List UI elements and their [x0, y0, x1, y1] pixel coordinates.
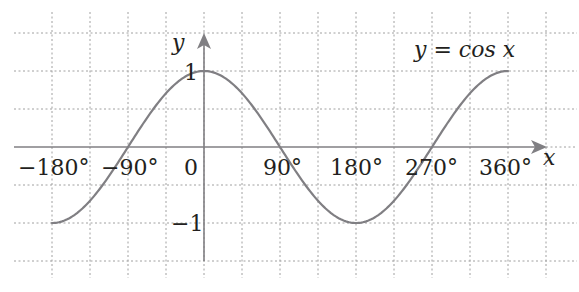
x-tick-90: 90° [263, 155, 302, 180]
x-tick-180: 180° [330, 155, 383, 180]
x-tick-m90: −90° [101, 155, 158, 180]
y-tick-1: 1 [184, 60, 198, 85]
x-tick-m180: −180° [18, 155, 89, 180]
x-axis-label: x [543, 145, 556, 170]
y-axis-label: y [171, 30, 185, 55]
x-tick-360: 360° [479, 155, 532, 180]
cosine-graph: y = cos x y x 1 −1 −180° −90° 0 90° 180°… [0, 0, 579, 292]
x-tick-0: 0 [184, 155, 198, 180]
y-tick-minus-1: −1 [171, 211, 203, 236]
x-tick-270: 270° [405, 155, 458, 180]
equation-label: y = cos x [413, 37, 516, 62]
